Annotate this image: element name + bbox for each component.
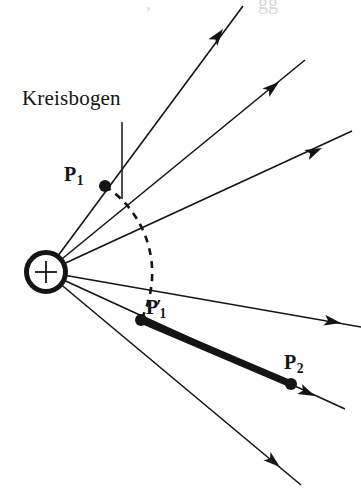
ray-group	[46, 6, 361, 485]
arrowhead-group	[208, 26, 341, 471]
ray-4	[46, 272, 361, 327]
point-marker-group	[99, 180, 297, 390]
label-p1: P1	[64, 164, 83, 184]
point-p1	[99, 180, 111, 192]
diagram-svg	[0, 0, 361, 496]
label-p1-prime: P′1	[146, 297, 170, 317]
label-kreisbogen: Kreisbogen	[22, 88, 121, 109]
point-p2	[285, 378, 297, 390]
arrowhead-ray-5	[297, 384, 317, 401]
ray-6	[46, 272, 301, 485]
diagram-canvas: , gg	[0, 0, 361, 496]
ray-1	[46, 6, 243, 272]
charge-source	[27, 253, 66, 292]
ray-3	[46, 131, 352, 272]
label-p2-base: P	[284, 351, 296, 373]
arrowhead-ray-1	[208, 26, 227, 46]
label-p2: P2	[284, 352, 303, 372]
chord-p1prime-p2	[141, 320, 291, 384]
label-p1-subscript: 1	[77, 173, 84, 188]
label-p1-base: P	[64, 163, 76, 185]
label-p2-subscript: 2	[297, 361, 304, 376]
label-p1-prime-subscript: 1	[160, 306, 167, 321]
